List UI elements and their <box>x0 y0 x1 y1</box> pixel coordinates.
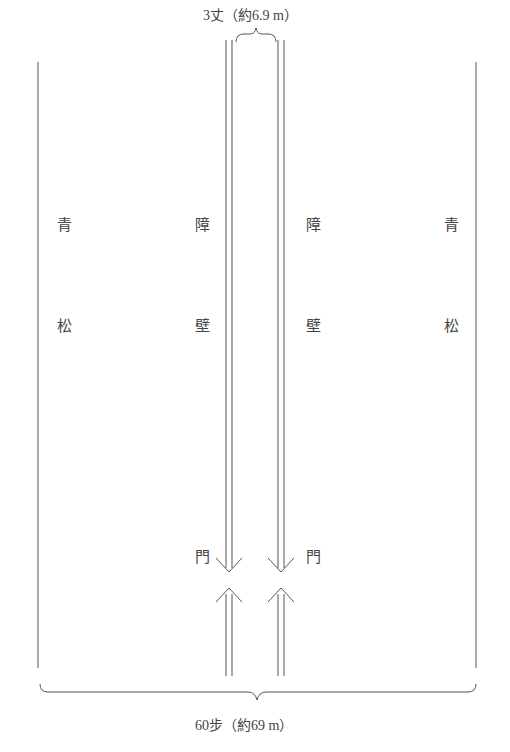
left-wall-label-2: 壁 <box>195 318 210 334</box>
top-brace-icon <box>236 28 276 42</box>
right-pine-label-1: 青 <box>444 217 459 233</box>
left-down-arrow-icon <box>216 558 242 572</box>
left-gate-label: 門 <box>195 549 210 565</box>
right-pine-label-2: 松 <box>444 318 459 334</box>
bottom-brace-icon <box>40 684 476 700</box>
right-down-arrow-icon <box>268 558 294 572</box>
right-gate-label: 門 <box>306 549 321 565</box>
top-width-caption: 3丈（約6.9 m） <box>203 8 298 24</box>
right-up-arrow-icon <box>268 588 294 602</box>
left-wall-label-1: 障 <box>195 217 210 233</box>
left-pine-label-1: 青 <box>57 217 72 233</box>
right-wall-label-2: 壁 <box>306 318 321 334</box>
left-pine-label-2: 松 <box>57 318 72 334</box>
road-diagram <box>0 0 510 752</box>
left-up-arrow-icon <box>216 588 242 602</box>
right-wall-label-1: 障 <box>306 217 321 233</box>
bottom-length-caption: 60步（約69 m） <box>195 718 293 734</box>
